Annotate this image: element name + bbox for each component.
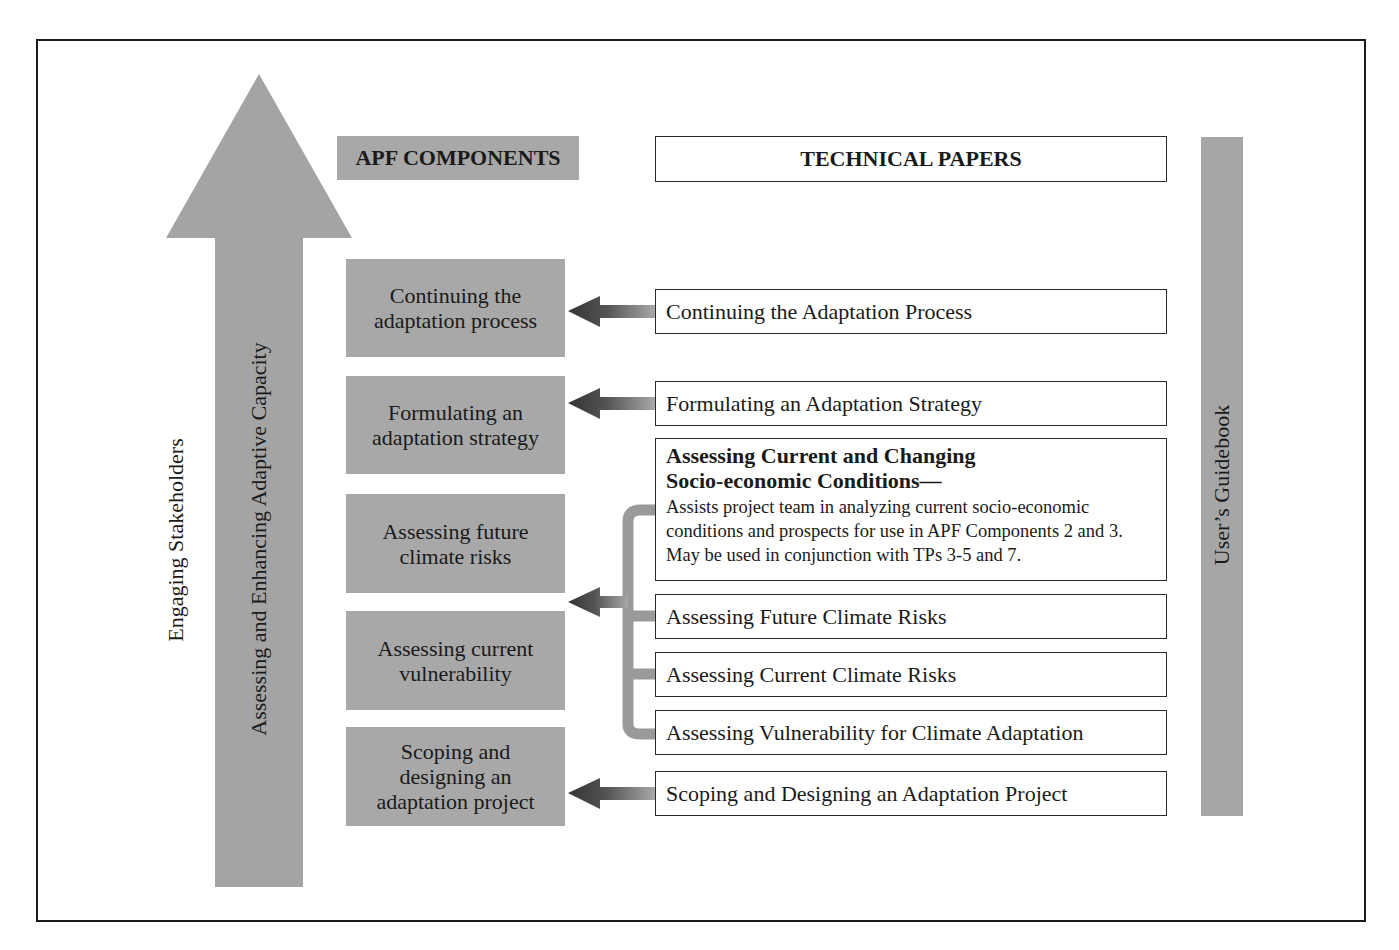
- component-scoping: Scoping and designing an adaptation proj…: [346, 727, 565, 826]
- component-current-vulnerability: Assessing current vulnerability: [346, 611, 565, 710]
- tp-label: Formulating an Adaptation Strategy: [666, 391, 982, 417]
- component-continuing: Continuing the adaptation process: [346, 259, 565, 357]
- tp-socio-description: Assists project team in analyzing curren…: [666, 495, 1158, 567]
- arrow-left-icon: [568, 587, 628, 617]
- component-label: Assessing current vulnerability: [361, 636, 551, 686]
- adaptive-capacity-label: Assessing and Enhancing Adaptive Capacit…: [246, 309, 272, 769]
- component-future-risks: Assessing future climate risks: [346, 494, 565, 593]
- component-label: Assessing future climate risks: [366, 519, 546, 569]
- tp-label: Scoping and Designing an Adaptation Proj…: [666, 781, 1067, 807]
- component-label: Formulating an adaptation strategy: [361, 400, 551, 450]
- arrow-left-icon: [568, 388, 655, 419]
- tp-current-risks: Assessing Current Climate Risks: [655, 652, 1167, 697]
- component-formulating: Formulating an adaptation strategy: [346, 376, 565, 474]
- engaging-stakeholders-label: Engaging Stakeholders: [163, 360, 189, 720]
- tp-label: Assessing Future Climate Risks: [666, 604, 947, 630]
- tp-socio-economic: Assessing Current and Changing Socio-eco…: [655, 438, 1167, 581]
- tp-label: Assessing Vulnerability for Climate Adap…: [666, 720, 1083, 746]
- tp-socio-title: Assessing Current and Changing Socio-eco…: [666, 443, 1026, 493]
- tp-continuing: Continuing the Adaptation Process: [655, 289, 1167, 334]
- tp-label: Assessing Current Climate Risks: [666, 662, 956, 688]
- arrow-left-icon: [568, 296, 655, 327]
- apf-components-header: APF COMPONENTS: [337, 136, 579, 180]
- tp-scoping: Scoping and Designing an Adaptation Proj…: [655, 771, 1167, 816]
- users-guidebook-label: User’s Guidebook: [1209, 385, 1235, 585]
- component-label: Scoping and designing an adaptation proj…: [363, 739, 548, 814]
- tp-formulating: Formulating an Adaptation Strategy: [655, 381, 1167, 426]
- bracket-connector-icon: [628, 510, 655, 734]
- technical-papers-header: TECHNICAL PAPERS: [655, 136, 1167, 182]
- tp-future-risks: Assessing Future Climate Risks: [655, 594, 1167, 639]
- tp-vulnerability: Assessing Vulnerability for Climate Adap…: [655, 710, 1167, 755]
- tp-label: Continuing the Adaptation Process: [666, 299, 972, 325]
- component-label: Continuing the adaptation process: [366, 283, 546, 333]
- arrow-left-icon: [568, 778, 655, 809]
